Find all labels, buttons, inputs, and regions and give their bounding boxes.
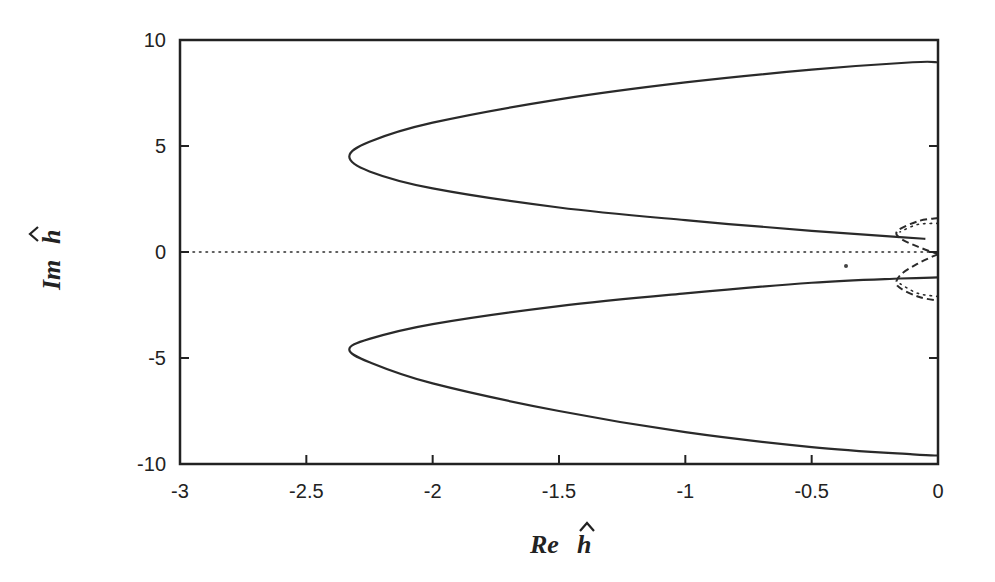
plot-series	[180, 62, 938, 456]
y-tick-label: -5	[148, 347, 166, 369]
x-axis-title-prefix: Re	[529, 530, 559, 559]
solid-curve	[349, 62, 938, 239]
x-tick-label: -1	[676, 480, 694, 502]
chart: -3-2.5-2-1.5-1-0.50 1050-5-10 Re h Im h	[0, 0, 995, 582]
dotted-curve	[900, 284, 938, 297]
y-axis-title: Im h	[30, 227, 66, 291]
solid-curve	[349, 277, 938, 455]
x-axis-title: Re h	[529, 523, 594, 559]
x-tick-label: 0	[932, 480, 943, 502]
dotted-curve	[900, 223, 938, 231]
x-tick-label: -2	[424, 480, 442, 502]
x-axis-title-symbol: h	[577, 530, 591, 559]
y-tick-label: -10	[137, 453, 166, 475]
y-axis-title-prefix: Im	[37, 260, 66, 291]
x-tick-label: -3	[171, 480, 189, 502]
x-tick-label: -0.5	[794, 480, 828, 502]
x-tick-label: -1.5	[542, 480, 576, 502]
y-axis-title-symbol: h	[37, 230, 66, 244]
y-tick-label: 10	[144, 29, 166, 51]
x-axis-ticks: -3-2.5-2-1.5-1-0.50	[171, 455, 943, 502]
y-tick-label: 0	[155, 241, 166, 263]
stray-dot	[844, 264, 848, 268]
y-tick-label: 5	[155, 135, 166, 157]
x-tick-label: -2.5	[289, 480, 323, 502]
